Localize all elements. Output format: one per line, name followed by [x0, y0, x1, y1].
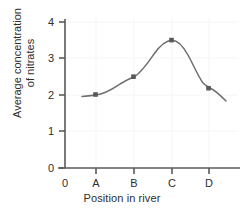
y-axis-title: Average concentration of nitrates: [11, 0, 41, 143]
x-tick-label-c: C: [164, 177, 180, 189]
y-tick-label-0: 0: [38, 162, 54, 174]
data-series-nitrates: [82, 38, 226, 101]
x-axis-title: Position in river: [0, 192, 244, 204]
x-tick-label-a: A: [88, 177, 104, 189]
x-tick-label-d: D: [201, 177, 217, 189]
data-point-A: [93, 92, 98, 97]
nitrate-concentration-chart: 4 3 2 1 0 0 A B C D Position in river Av…: [0, 0, 244, 211]
y-axis: [59, 19, 65, 168]
data-point-C: [169, 38, 174, 43]
x-axis: [58, 168, 240, 174]
data-point-D: [206, 86, 211, 91]
y-axis-title-line-2: of nitrates: [24, 0, 37, 143]
grid-lines: [65, 18, 238, 168]
x-tick-label-origin: 0: [57, 177, 73, 189]
y-axis-title-line-1: Average concentration: [11, 0, 24, 143]
x-tick-label-b: B: [126, 177, 142, 189]
series-line: [82, 40, 226, 101]
data-point-B: [131, 74, 136, 79]
